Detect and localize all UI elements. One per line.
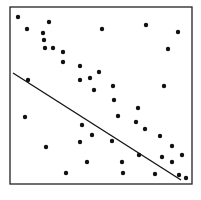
data-point: [80, 123, 84, 127]
data-point: [112, 98, 116, 102]
data-points: [16, 15, 188, 180]
data-point: [111, 84, 115, 88]
data-point: [51, 46, 55, 50]
data-point: [25, 27, 29, 31]
data-point: [160, 155, 164, 159]
data-point: [121, 171, 125, 175]
data-point: [64, 171, 68, 175]
data-point: [78, 140, 82, 144]
data-point: [134, 120, 138, 124]
data-point: [26, 78, 30, 82]
data-point: [170, 160, 174, 164]
data-point: [23, 115, 27, 119]
data-point: [100, 27, 104, 31]
data-point: [90, 133, 94, 137]
data-point: [92, 88, 96, 92]
data-point: [85, 160, 89, 164]
data-point: [61, 60, 65, 64]
data-point: [177, 173, 181, 177]
data-point: [61, 50, 65, 54]
data-point: [136, 106, 140, 110]
data-point: [110, 139, 114, 143]
data-point: [78, 64, 82, 68]
data-point: [78, 78, 82, 82]
data-point: [16, 15, 20, 19]
data-point: [41, 31, 45, 35]
data-point: [120, 160, 124, 164]
data-point: [88, 76, 92, 80]
data-point: [43, 46, 47, 50]
data-point: [184, 176, 188, 180]
data-point: [144, 23, 148, 27]
data-point: [162, 84, 166, 88]
data-point: [137, 153, 141, 157]
data-point: [42, 38, 46, 42]
data-point: [176, 30, 180, 34]
data-point: [97, 70, 101, 74]
data-point: [170, 144, 174, 148]
trend-line: [13, 73, 181, 180]
data-point: [153, 172, 157, 176]
data-point: [166, 47, 170, 51]
data-point: [116, 114, 120, 118]
data-point: [47, 20, 51, 24]
data-point: [180, 153, 184, 157]
data-point: [44, 145, 48, 149]
plot-frame: [10, 7, 192, 184]
data-point: [143, 127, 147, 131]
scatter-plot: [0, 0, 201, 200]
data-point: [158, 134, 162, 138]
